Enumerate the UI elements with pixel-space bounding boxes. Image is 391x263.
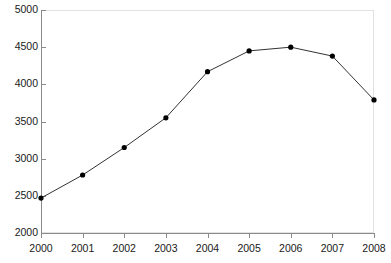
data-point-marker [371,97,376,102]
data-point-marker [122,145,127,150]
data-point-marker [80,172,85,177]
data-point-marker [330,53,335,58]
data-point-marker [205,69,210,74]
series-markers [38,45,376,201]
data-point-marker [38,195,43,200]
line-chart: 2000250030003500400045005000 20002001200… [0,0,391,263]
data-point-marker [247,48,252,53]
data-point-marker [163,115,168,120]
data-point-marker [288,45,293,50]
data-series-layer [0,0,391,263]
